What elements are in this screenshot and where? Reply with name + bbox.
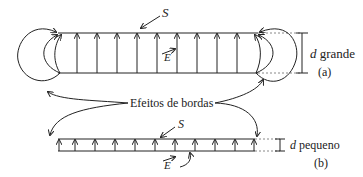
surface-label-a: S <box>162 6 169 19</box>
distance-label-b: d pequeno <box>290 139 340 151</box>
panel-a-plates <box>58 33 308 73</box>
surface-label-b: S <box>178 118 184 130</box>
distance-desc-a: grande <box>320 46 355 61</box>
distance-label-a: d grande <box>310 47 355 60</box>
distance-var-a: d <box>310 46 317 61</box>
field-label-a: E <box>164 52 171 63</box>
distance-desc-b: pequeno <box>299 138 340 152</box>
field-label-b: E <box>164 160 171 171</box>
panel-tag-a: (a) <box>318 66 331 78</box>
surface-pointer-a <box>141 16 160 28</box>
field-pointer-b <box>180 153 191 167</box>
panel-tag-b: (b) <box>314 157 328 169</box>
surface-pointer-b <box>161 127 175 137</box>
capacitor-edge-effects-diagram: S E d grande (a) Efeitos de bordas S E d… <box>0 0 363 177</box>
edge-effects-label: Efeitos de bordas <box>130 97 213 109</box>
distance-var-b: d <box>290 138 296 152</box>
panel-b-plates <box>58 139 285 151</box>
panel-b-field-lines <box>59 140 254 151</box>
